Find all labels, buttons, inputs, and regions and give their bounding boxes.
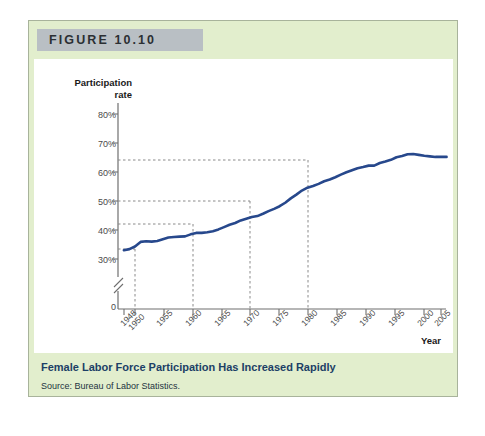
figure-number-label: FIGURE 10.10 xyxy=(49,33,156,47)
figure-number-banner: FIGURE 10.10 xyxy=(37,29,203,51)
figure-caption-source: Source: Bureau of Labor Statistics. xyxy=(41,381,180,391)
chart-plot-area: Participation rate 80% 70% 60% 50% 40% 3… xyxy=(34,59,453,353)
y-axis-ticks xyxy=(112,114,118,259)
reference-guides xyxy=(118,160,308,309)
x-axis-ticks xyxy=(124,309,441,315)
figure-card: FIGURE 10.10 Participation rate 80% 70% … xyxy=(28,20,458,397)
chart-svg xyxy=(34,59,453,353)
figure-caption-title: Female Labor Force Participation Has Inc… xyxy=(41,361,336,373)
series-line-female-participation xyxy=(124,154,447,250)
